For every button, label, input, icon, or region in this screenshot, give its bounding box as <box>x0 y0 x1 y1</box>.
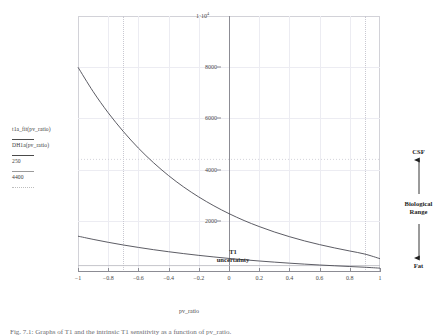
legend-swatch-solid-0 <box>12 139 34 140</box>
x-tick-label: −1 <box>75 275 81 281</box>
y-tick-label: 4000 <box>205 167 217 173</box>
x-tick-label: 0.6 <box>316 275 324 281</box>
y-tick-mark <box>217 118 221 119</box>
figure-caption: Fig. 7.1: Graphs of T1 and the intrinsic… <box>10 328 435 335</box>
legend-entry-3: 4400 <box>12 174 68 186</box>
x-tick-label: 0.4 <box>286 275 294 281</box>
x-tick-mark <box>259 268 260 272</box>
annotation-t1-line1: T1 <box>217 248 250 256</box>
y-tick-label: 2000 <box>205 218 217 224</box>
chart-legend: t1a_fit(pv_ratio) DH1a(pv_ratio) 250 440… <box>12 126 68 190</box>
x-tick-mark <box>199 268 200 272</box>
y-tick-label: 6000 <box>205 115 217 121</box>
x-tick-mark <box>108 268 109 272</box>
x-tick-label: 0.8 <box>346 275 354 281</box>
curve-t1a_fit(pv_ratio) <box>78 67 380 258</box>
y-axis-top-label: 1·104 <box>196 11 209 19</box>
legend-entry-2: 250 <box>12 158 68 170</box>
x-tick-label: 0.2 <box>255 275 263 281</box>
x-tick-mark <box>229 268 230 272</box>
annotation-t1-line2: uncertainty <box>217 256 250 264</box>
legend-swatch-solid-1 <box>12 155 34 156</box>
x-tick-label: 0 <box>228 275 231 281</box>
figure-root: t1a_fit(pv_ratio) DH1a(pv_ratio) 250 440… <box>0 0 441 335</box>
y-tick-label: 8000 <box>205 64 217 70</box>
y-tick-mark <box>217 67 221 68</box>
x-tick-mark <box>350 268 351 272</box>
x-tick-mark <box>138 268 139 272</box>
legend-label-t1a-fit: t1a_fit(pv_ratio) <box>12 126 51 133</box>
x-tick-label: 1 <box>379 275 382 281</box>
x-tick-mark <box>320 268 321 272</box>
x-tick-label: −0.2 <box>193 275 204 281</box>
plot-area: 2000400060008000−1−0.8−0.6−0.4−0.200.20.… <box>78 16 380 272</box>
annotation-t1-uncertainty: T1 uncertainty <box>217 248 250 264</box>
x-tick-mark <box>289 268 290 272</box>
x-tick-label: −0.6 <box>133 275 144 281</box>
x-tick-mark <box>78 268 79 272</box>
x-tick-label: −0.8 <box>103 275 114 281</box>
x-axis-title: pv_ratio <box>179 308 199 314</box>
biological-range-scale: CSF Biological Range Fat <box>396 148 441 270</box>
legend-label-4400: 4400 <box>12 174 24 181</box>
legend-entry-0: t1a_fit(pv_ratio) <box>12 126 68 138</box>
y-tick-mark <box>217 220 221 221</box>
y-tick-mark <box>217 169 221 170</box>
x-tick-mark <box>380 268 381 272</box>
legend-label-250: 250 <box>12 158 21 165</box>
x-tick-label: −0.4 <box>163 275 174 281</box>
legend-swatch-dotted-grey <box>12 187 34 188</box>
x-tick-mark <box>169 268 170 272</box>
range-arrows-icon <box>410 148 428 270</box>
legend-entry-1: DH1a(pv_ratio) <box>12 142 68 154</box>
curve-layer <box>78 16 380 272</box>
legend-label-dh1a: DH1a(pv_ratio) <box>12 142 49 149</box>
legend-swatch-thin-grey <box>12 171 34 172</box>
